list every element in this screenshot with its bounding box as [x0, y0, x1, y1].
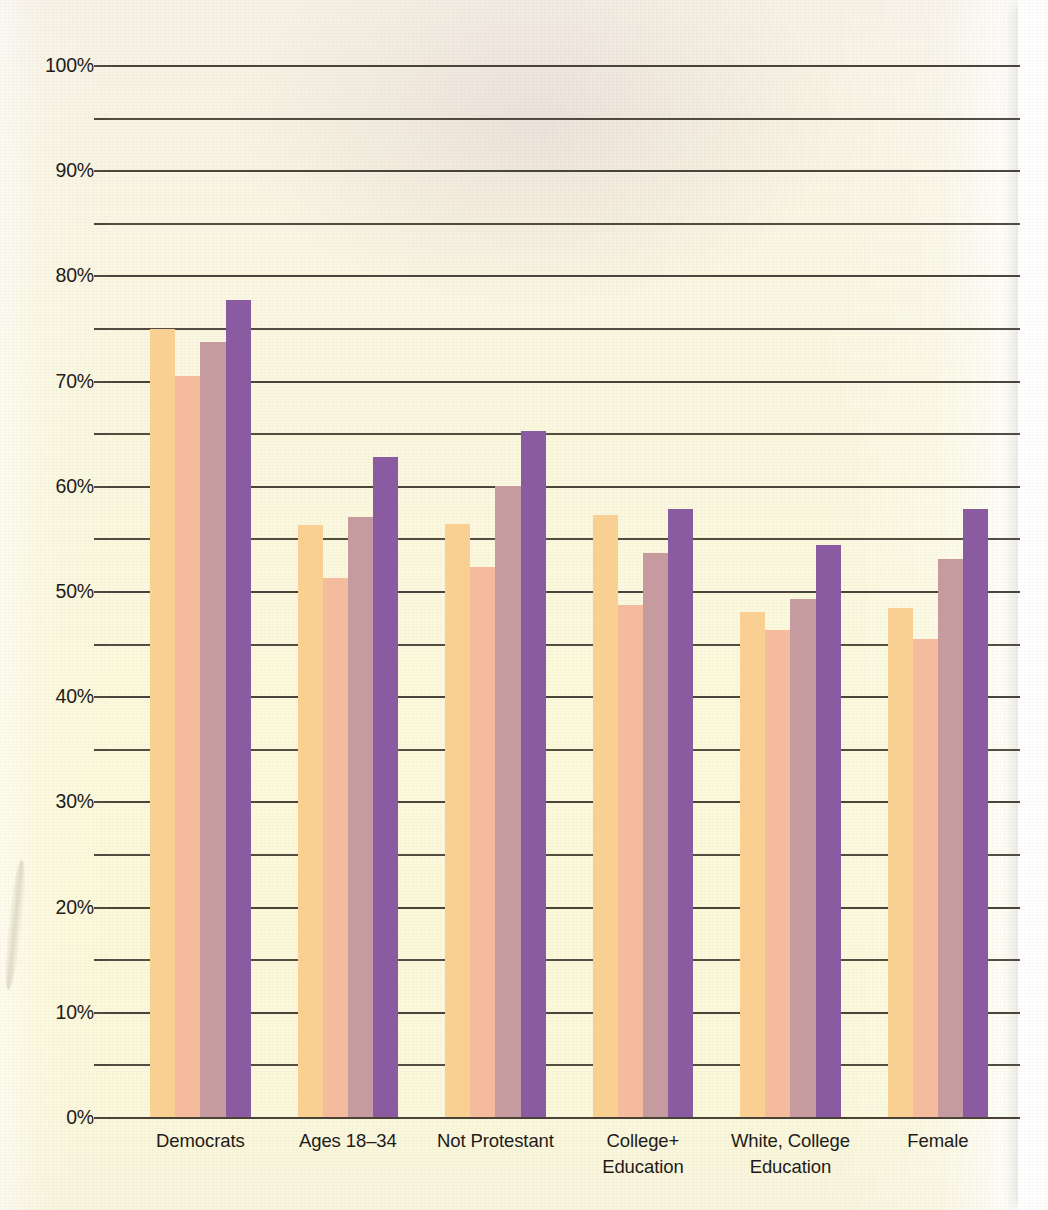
y-axis-label: 0%: [8, 1106, 94, 1129]
bar[interactable]: [888, 608, 913, 1117]
x-axis-group-label-line: Education: [680, 1154, 900, 1180]
gridline: [108, 170, 1020, 172]
bar[interactable]: [790, 599, 815, 1117]
y-axis-tick: [94, 591, 108, 593]
y-axis-tick: [94, 907, 108, 909]
x-axis-group-label: Female: [828, 1128, 1048, 1154]
bar[interactable]: [913, 639, 938, 1117]
scanned-page: 0%10%20%30%40%50%60%70%80%90%100% Democr…: [0, 0, 1048, 1210]
y-axis-label: 80%: [8, 264, 94, 287]
bar[interactable]: [618, 605, 643, 1117]
bar[interactable]: [938, 559, 963, 1117]
bar[interactable]: [521, 431, 546, 1117]
y-axis-tick: [94, 644, 108, 646]
y-axis-tick: [94, 1012, 108, 1014]
bar[interactable]: [150, 329, 175, 1117]
x-axis-group-label-line: Female: [828, 1128, 1048, 1154]
axis-baseline: [108, 1117, 1020, 1119]
y-axis-label: 100%: [8, 54, 94, 77]
bar[interactable]: [445, 524, 470, 1117]
y-axis-label: 60%: [8, 474, 94, 497]
bar[interactable]: [373, 457, 398, 1117]
bar[interactable]: [963, 509, 988, 1117]
y-axis-label: 50%: [8, 580, 94, 603]
y-axis: 0%10%20%30%40%50%60%70%80%90%100%: [0, 65, 94, 1117]
y-axis-tick: [94, 696, 108, 698]
y-axis-tick: [94, 170, 108, 172]
bar[interactable]: [348, 517, 373, 1117]
bar[interactable]: [323, 578, 348, 1117]
bar[interactable]: [470, 567, 495, 1117]
y-axis-tick: [94, 801, 108, 803]
y-axis-tick: [94, 223, 108, 225]
y-axis-label: 10%: [8, 1000, 94, 1023]
gridline: [108, 223, 1020, 225]
y-axis-label: 40%: [8, 685, 94, 708]
y-axis-tick: [94, 1064, 108, 1066]
bar-chart: 0%10%20%30%40%50%60%70%80%90%100% Democr…: [0, 0, 1048, 1210]
y-axis-tick: [94, 854, 108, 856]
y-axis-label: 20%: [8, 895, 94, 918]
bar[interactable]: [495, 486, 520, 1117]
y-axis-label: 30%: [8, 790, 94, 813]
bar[interactable]: [593, 515, 618, 1117]
bar[interactable]: [740, 612, 765, 1117]
bar[interactable]: [226, 300, 251, 1117]
bar[interactable]: [175, 376, 200, 1117]
bar[interactable]: [765, 630, 790, 1117]
y-axis-tick: [94, 749, 108, 751]
bar[interactable]: [816, 545, 841, 1117]
y-axis-tick: [94, 381, 108, 383]
y-axis-label: 90%: [8, 159, 94, 182]
bar[interactable]: [298, 525, 323, 1117]
y-axis-tick: [94, 118, 108, 120]
y-axis-tick: [94, 486, 108, 488]
bar[interactable]: [200, 342, 225, 1117]
gridline: [108, 275, 1020, 277]
y-axis-tick: [94, 65, 108, 67]
gridline: [108, 118, 1020, 120]
bar[interactable]: [668, 509, 693, 1117]
plot-area: [108, 65, 1020, 1117]
y-axis-tick: [94, 275, 108, 277]
y-axis-label: 70%: [8, 369, 94, 392]
y-axis-tick: [94, 1117, 108, 1119]
bar[interactable]: [643, 553, 668, 1117]
gridline: [108, 65, 1020, 67]
y-axis-tick: [94, 959, 108, 961]
y-axis-tick: [94, 538, 108, 540]
y-axis-tick: [94, 328, 108, 330]
y-axis-tick: [94, 433, 108, 435]
